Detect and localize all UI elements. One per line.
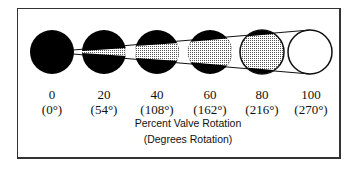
label-20: 20(54°) — [79, 87, 129, 117]
caption-percent-rotation: Percent Valve Rotation — [88, 117, 288, 129]
label-100: 100(270°) — [286, 87, 336, 117]
caption-degrees-rotation: (Degrees Rotation) — [88, 133, 288, 145]
label-80: 80(216°) — [237, 87, 287, 117]
valve-0-closed-icon — [30, 30, 74, 74]
valve-100-open-icon — [288, 30, 332, 74]
label-0: 0(0°) — [27, 87, 77, 117]
label-60: 60(162°) — [185, 87, 235, 117]
label-40: 40(108°) — [132, 87, 182, 117]
